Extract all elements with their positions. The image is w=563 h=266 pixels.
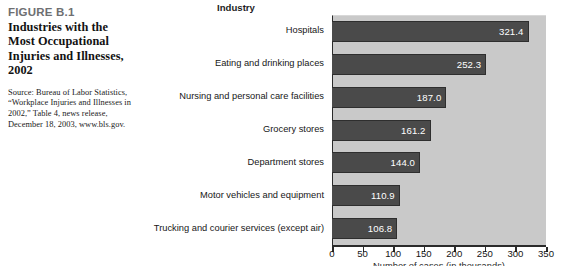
category-label: Nursing and personal care facilities [136, 91, 324, 101]
x-axis-line [332, 245, 546, 247]
category-label: Motor vehicles and equipment [136, 190, 324, 200]
figure-title: Industries with the Most Occupational In… [8, 20, 132, 78]
category-label: Department stores [136, 157, 324, 167]
category-label: Trucking and courier services (except ai… [136, 223, 324, 233]
bar: 106.8 [332, 218, 397, 239]
x-axis-tick-label: 50 [357, 248, 368, 259]
bar: 252.3 [332, 54, 486, 75]
x-axis-tick-label: 350 [538, 248, 554, 259]
x-axis-title: Number of cases (in thousands) [332, 261, 546, 266]
category-label: Grocery stores [136, 124, 324, 134]
figure-number: FIGURE B.1 [8, 6, 132, 19]
bar-value-label: 161.2 [401, 125, 430, 136]
bar-value-label: 110.9 [371, 190, 399, 201]
category-label: Hospitals [136, 25, 324, 35]
x-axis-tick-label: 0 [329, 248, 334, 259]
bar-value-label: 187.0 [417, 92, 446, 103]
figure-caption-block: FIGURE B.1 Industries with the Most Occu… [8, 6, 132, 130]
x-axis-tick-label: 200 [446, 248, 462, 259]
bar: 110.9 [332, 185, 400, 206]
bar-value-label: 321.4 [499, 26, 528, 37]
x-axis-tick-label: 100 [385, 248, 401, 259]
bar: 161.2 [332, 120, 431, 141]
category-label: Eating and drinking places [136, 58, 324, 68]
x-axis-tick-label: 250 [477, 248, 493, 259]
chart-category-header: Industry [140, 2, 332, 13]
category-axis-labels: HospitalsEating and drinking placesNursi… [140, 15, 328, 245]
figure-page: FIGURE B.1 Industries with the Most Occu… [0, 0, 563, 266]
x-axis-tick-label: 150 [416, 248, 432, 259]
bar-value-label: 252.3 [457, 59, 486, 70]
source-note: Source: Bureau of Labor Statistics, “Wor… [8, 88, 132, 131]
bar-chart: Industry HospitalsEating and drinking pl… [140, 0, 563, 266]
bar: 144.0 [332, 152, 420, 173]
bar-value-label: 106.8 [368, 223, 397, 234]
x-axis-tick-label: 300 [507, 248, 523, 259]
bar-value-label: 144.0 [391, 157, 420, 168]
bar: 321.4 [332, 21, 529, 42]
bar: 187.0 [332, 87, 446, 108]
